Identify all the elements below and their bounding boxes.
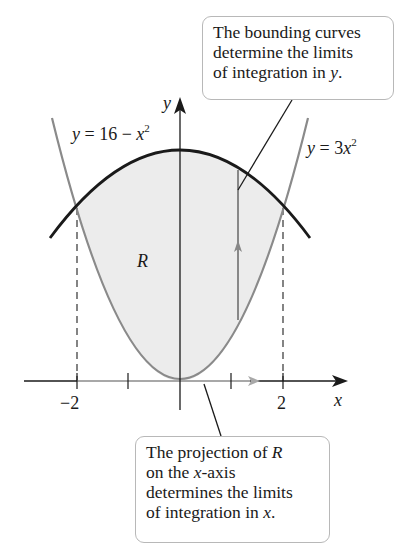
upper-curve-label: y = 16 − x2: [72, 124, 150, 145]
callout-top-pointer: [238, 100, 292, 190]
region-label: R: [137, 251, 148, 272]
callout-bottom-line3: determines the limits: [146, 482, 320, 502]
callout-bounding-curves: The bounding curves determine the limits…: [202, 16, 394, 100]
x-axis-label: x: [334, 390, 342, 411]
callout-bottom-line4: of integration in x.: [146, 502, 320, 522]
lower-curve-label: y = 3x2: [307, 138, 357, 159]
y-axis-label: y: [163, 93, 171, 114]
tick-label-neg2: −2: [60, 393, 79, 414]
callout-bottom-pointer: [204, 384, 221, 436]
callout-top-line1: The bounding curves: [213, 22, 384, 42]
callout-top-line3: of integration in y.: [213, 62, 384, 82]
callout-bottom-line2: on the x-axis: [146, 462, 320, 482]
callout-projection: The projection of R on the x-axis determ…: [135, 436, 330, 543]
tick-label-2: 2: [277, 393, 286, 414]
callout-bottom-line1: The projection of R: [146, 442, 320, 462]
callout-top-line2: determine the limits: [213, 42, 384, 62]
